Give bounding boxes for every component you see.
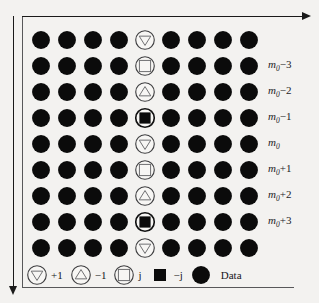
data-symbol-icon: [239, 212, 260, 233]
data-symbol-icon: [213, 186, 234, 207]
legend-item: Data: [190, 264, 242, 286]
data-symbol-icon: [187, 186, 208, 207]
data-symbol-icon: [57, 134, 78, 155]
pilot-symbol-grid-figure: m0−3m0−2m0−1m0m0+1m0+2m0+3 +1−1j−jData: [0, 0, 319, 303]
data-symbol-icon: [161, 238, 182, 259]
data-symbol-icon: [161, 212, 182, 233]
data-cell: [28, 27, 54, 53]
plus-one-symbol-icon: [27, 265, 48, 286]
legend-label: +1: [51, 269, 63, 281]
data-symbol-icon: [109, 134, 130, 155]
j-symbol-icon: [135, 160, 156, 181]
legend-item: −1: [70, 264, 107, 286]
data-symbol-icon: [239, 82, 260, 103]
data-cell: [210, 105, 236, 131]
data-cell: [236, 105, 262, 131]
data-symbol-icon: [239, 108, 260, 129]
legend-swatch: [113, 264, 135, 286]
data-cell: [184, 183, 210, 209]
data-cell: [184, 157, 210, 183]
data-symbol-icon: [161, 56, 182, 77]
legend-swatch: [26, 264, 48, 286]
data-symbol-icon: [239, 134, 260, 155]
legend-item: +1: [26, 264, 63, 286]
data-cell: [158, 53, 184, 79]
minus-one-symbol-icon: [70, 265, 91, 286]
data-symbol-icon: [239, 160, 260, 181]
data-cell: [236, 209, 262, 235]
data-cell: [106, 53, 132, 79]
pilot-cell: [132, 105, 158, 131]
horizontal-axis-line: [22, 16, 308, 17]
row-label: m0: [268, 136, 280, 151]
data-cell: [54, 131, 80, 157]
minus-one-symbol-icon: [135, 186, 156, 207]
data-symbol-icon: [57, 56, 78, 77]
data-symbol-icon: [57, 108, 78, 129]
data-cell: [80, 157, 106, 183]
data-symbol-icon: [187, 82, 208, 103]
data-symbol-icon: [31, 56, 52, 77]
data-cell: [28, 131, 54, 157]
data-cell: [184, 131, 210, 157]
data-cell: [158, 131, 184, 157]
data-symbol-icon: [83, 30, 104, 51]
data-cell: [54, 27, 80, 53]
data-symbol-icon: [161, 30, 182, 51]
data-symbol-icon: [187, 30, 208, 51]
data-cell: [28, 209, 54, 235]
data-cell: [158, 235, 184, 261]
legend-item: j: [113, 264, 141, 286]
data-symbol-icon: [83, 212, 104, 233]
data-symbol-icon: [239, 30, 260, 51]
data-symbol-icon: [161, 160, 182, 181]
data-symbol-icon: [161, 134, 182, 155]
data-cell: [54, 209, 80, 235]
data-cell: [106, 183, 132, 209]
data-symbol-icon: [83, 56, 104, 77]
data-cell: [106, 157, 132, 183]
data-cell: [106, 105, 132, 131]
legend-item: −j: [149, 264, 183, 286]
data-cell: [158, 157, 184, 183]
data-cell: [158, 105, 184, 131]
data-cell: [54, 105, 80, 131]
data-cell: [158, 209, 184, 235]
pilot-cell: [132, 79, 158, 105]
pilot-cell: [132, 235, 158, 261]
data-cell: [210, 183, 236, 209]
arrow-right-icon: [302, 12, 311, 20]
arrow-down-icon: [9, 286, 17, 295]
data-symbol-icon: [31, 108, 52, 129]
data-cell: [236, 79, 262, 105]
data-symbol-icon: [31, 82, 52, 103]
data-cell: [28, 53, 54, 79]
data-symbol-icon: [83, 108, 104, 129]
frame-bottom-rule: [22, 287, 294, 288]
data-cell: [54, 53, 80, 79]
data-cell: [80, 105, 106, 131]
data-symbol-icon: [213, 134, 234, 155]
data-symbol-icon: [31, 134, 52, 155]
data-symbol-icon: [57, 160, 78, 181]
data-cell: [158, 27, 184, 53]
row-label: m0+3: [268, 214, 291, 229]
data-symbol-icon: [213, 30, 234, 51]
row-label: m0−3: [268, 58, 291, 73]
data-cell: [184, 53, 210, 79]
data-cell: [184, 105, 210, 131]
data-symbol-icon: [109, 56, 130, 77]
data-symbol-icon: [83, 238, 104, 259]
data-symbol-icon: [187, 108, 208, 129]
data-symbol-icon: [83, 134, 104, 155]
data-symbol-icon: [57, 82, 78, 103]
data-symbol-icon: [190, 265, 211, 286]
data-cell: [106, 235, 132, 261]
data-cell: [28, 157, 54, 183]
data-cell: [28, 105, 54, 131]
pilot-cell: [132, 131, 158, 157]
data-cell: [106, 79, 132, 105]
data-symbol-icon: [31, 30, 52, 51]
data-cell: [236, 131, 262, 157]
legend: +1−1j−jData: [26, 264, 249, 286]
